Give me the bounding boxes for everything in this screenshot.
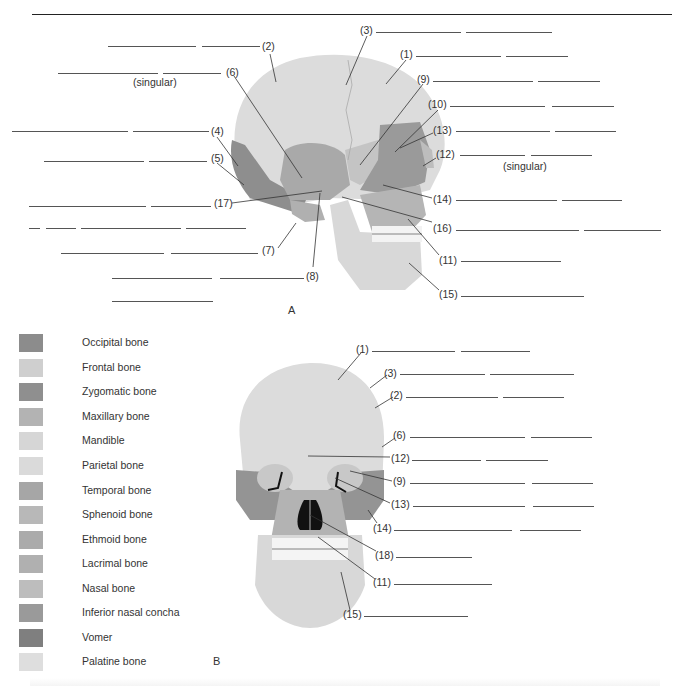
answer-blank-b14-1[interactable] bbox=[394, 530, 512, 531]
answer-blank-a7-1[interactable] bbox=[61, 253, 164, 254]
color-swatch bbox=[19, 653, 43, 671]
legend-item: Nasal bone bbox=[19, 580, 219, 598]
answer-blank-b6-1[interactable] bbox=[410, 437, 525, 438]
singular-note-a12: (singular) bbox=[503, 160, 547, 172]
callout-a-3: (3) bbox=[360, 24, 373, 36]
answer-blank-a16-2[interactable] bbox=[584, 230, 661, 231]
answer-blank-b9-1[interactable] bbox=[410, 483, 525, 484]
callout-b-3: (3) bbox=[384, 367, 397, 379]
callout-a-5: (5) bbox=[211, 152, 224, 164]
answer-blank-a5-2[interactable] bbox=[149, 161, 207, 162]
answer-blank-a6-2[interactable] bbox=[163, 73, 221, 74]
answer-blank-a3-1[interactable] bbox=[376, 32, 461, 33]
answer-blank-a2-2[interactable] bbox=[202, 46, 260, 47]
answer-blank-a4-1[interactable] bbox=[12, 131, 128, 132]
answer-blank-a3-2[interactable] bbox=[466, 32, 552, 33]
legend-item: Vomer bbox=[19, 629, 219, 647]
answer-blank-a13-2[interactable] bbox=[555, 131, 616, 132]
answer-blank-a17-2[interactable] bbox=[151, 206, 211, 207]
color-swatch bbox=[19, 555, 43, 573]
callout-a-15: (15) bbox=[439, 288, 458, 300]
answer-blank-a13-1[interactable] bbox=[456, 131, 550, 132]
callout-b-11: (11) bbox=[373, 576, 391, 588]
legend-item: Lacrimal bone bbox=[19, 555, 219, 573]
color-swatch bbox=[19, 629, 43, 647]
callout-b-14: (14) bbox=[373, 522, 392, 534]
answer-blank-a1-1[interactable] bbox=[416, 56, 501, 57]
color-swatch bbox=[19, 432, 43, 450]
color-swatch bbox=[19, 506, 43, 524]
callout-a-17: (17) bbox=[214, 197, 233, 209]
color-swatch bbox=[19, 482, 43, 500]
answer-blank-a9-2[interactable] bbox=[538, 81, 600, 82]
color-swatch bbox=[19, 531, 43, 549]
answer-blank-a10-1[interactable] bbox=[450, 106, 545, 107]
answer-blank-a2-1[interactable] bbox=[108, 46, 196, 47]
answer-blank-a12-2[interactable] bbox=[531, 155, 592, 156]
callout-a-2: (2) bbox=[262, 40, 275, 52]
legend-item: Sphenoid bone bbox=[19, 506, 219, 524]
answer-blank-a9-1[interactable] bbox=[433, 81, 533, 82]
callout-b-9: (9) bbox=[393, 475, 406, 487]
answer-blank-b14-2[interactable] bbox=[520, 530, 581, 531]
callout-a-9: (9) bbox=[417, 73, 430, 85]
callout-b-6: (6) bbox=[393, 429, 406, 441]
answer-blank-b1-2[interactable] bbox=[461, 351, 530, 352]
color-swatch bbox=[19, 408, 43, 426]
color-swatch bbox=[19, 457, 43, 475]
callout-a-13: (13) bbox=[433, 124, 452, 136]
answer-blank-b12-1[interactable] bbox=[412, 460, 481, 461]
answer-blank-a14-1[interactable] bbox=[456, 200, 557, 201]
answer-blank-row-1[interactable] bbox=[29, 228, 40, 229]
legend-item: Mandible bbox=[19, 432, 219, 450]
answer-blank-a5-1[interactable] bbox=[44, 161, 144, 162]
answer-blank-row-4[interactable] bbox=[186, 228, 246, 229]
answer-blank-b6-2[interactable] bbox=[531, 437, 592, 438]
callout-b-18: (18) bbox=[375, 549, 394, 561]
answer-blank-b3-1[interactable] bbox=[400, 374, 485, 375]
figure-caption-cropped bbox=[30, 678, 660, 686]
answer-blank-b2-2[interactable] bbox=[503, 397, 564, 398]
answer-blank-a11[interactable] bbox=[461, 261, 561, 262]
answer-blank-row-2[interactable] bbox=[46, 228, 76, 229]
answer-blank-a6-1[interactable] bbox=[58, 73, 158, 74]
answer-blank-a10-2[interactable] bbox=[552, 106, 614, 107]
callout-a-12: (12) bbox=[436, 148, 455, 160]
answer-blank-a12-1[interactable] bbox=[460, 155, 525, 156]
answer-blank-a15[interactable] bbox=[461, 296, 584, 297]
answer-blank-a16-1[interactable] bbox=[456, 230, 579, 231]
legend-item: Zygomatic bone bbox=[19, 383, 219, 401]
answer-blank-b11[interactable] bbox=[394, 584, 492, 585]
color-swatch bbox=[19, 383, 43, 401]
answer-blank-b1-1[interactable] bbox=[372, 351, 455, 352]
answer-blank-a17-1[interactable] bbox=[29, 206, 146, 207]
callout-a-7: (7) bbox=[262, 244, 275, 256]
answer-blank-a4-2[interactable] bbox=[133, 131, 209, 132]
answer-blank-b3-2[interactable] bbox=[490, 374, 574, 375]
answer-blank-b9-2[interactable] bbox=[532, 483, 593, 484]
answer-blank-extra[interactable] bbox=[112, 301, 213, 302]
frontal-skull bbox=[236, 363, 384, 628]
answer-blank-b18[interactable] bbox=[396, 557, 472, 558]
callout-a-10: (10) bbox=[428, 98, 447, 110]
answer-blank-a7-2[interactable] bbox=[171, 253, 258, 254]
answer-blank-b13-1[interactable] bbox=[413, 506, 525, 507]
legend-item: Temporal bone bbox=[19, 482, 219, 500]
callout-a-14: (14) bbox=[433, 193, 452, 205]
legend-item: Frontal bone bbox=[19, 359, 219, 377]
answer-blank-b13-2[interactable] bbox=[533, 506, 594, 507]
panel-label-a: A bbox=[288, 304, 295, 316]
callout-a-6: (6) bbox=[226, 66, 239, 78]
answer-blank-a14-2[interactable] bbox=[562, 200, 622, 201]
callout-b-12: (12) bbox=[391, 452, 410, 464]
answer-blank-row-3[interactable] bbox=[81, 228, 181, 229]
answer-blank-a8-2[interactable] bbox=[220, 278, 304, 279]
answer-blank-b2-1[interactable] bbox=[406, 397, 498, 398]
answer-blank-b12-2[interactable] bbox=[486, 460, 548, 461]
panel-label-b: B bbox=[213, 655, 220, 667]
color-swatch bbox=[19, 359, 43, 377]
legend-item: Occipital bone bbox=[19, 334, 219, 352]
answer-blank-b15[interactable] bbox=[364, 616, 468, 617]
answer-blank-a8-1[interactable] bbox=[112, 278, 212, 279]
answer-blank-a1-2[interactable] bbox=[506, 56, 568, 57]
